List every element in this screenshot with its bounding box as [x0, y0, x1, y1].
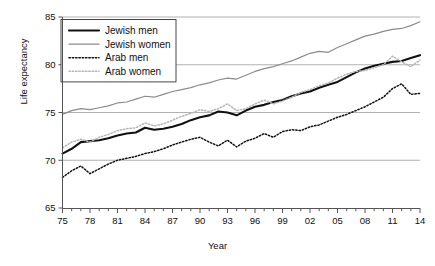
x-tick-label: 78	[85, 215, 96, 226]
x-tick-label: 99	[277, 215, 288, 226]
x-tick-label: 87	[167, 215, 178, 226]
chart-canvas: 6570758085 7578818487909396990205081114 …	[0, 0, 435, 266]
x-axis-label-text: Year	[208, 240, 227, 251]
chart-legend: Jewish menJewish womenArab menArab women	[61, 20, 176, 82]
y-tick-label: 85	[45, 11, 56, 22]
y-tick-label: 65	[45, 202, 56, 213]
y-tick-label: 75	[45, 107, 56, 118]
x-tick-label: 14	[415, 215, 426, 226]
y-tick-label: 80	[45, 59, 56, 70]
y-axis-label-text: Life expectancy	[18, 39, 29, 105]
y-axis-label: Life expectancy	[18, 7, 29, 137]
x-axis-label: Year	[0, 240, 435, 251]
x-tick-label: 05	[332, 215, 343, 226]
legend-label: Jewish men	[105, 25, 158, 36]
x-tick-label: 81	[112, 215, 123, 226]
x-tick-label: 75	[57, 215, 68, 226]
legend-label: Jewish women	[105, 39, 171, 50]
x-axis-ticks: 7578818487909396990205081114	[57, 208, 425, 226]
series-line	[63, 84, 421, 178]
life-expectancy-chart: 6570758085 7578818487909396990205081114 …	[0, 0, 435, 266]
x-tick-label: 93	[222, 215, 233, 226]
x-tick-label: 84	[140, 215, 151, 226]
x-tick-label: 96	[250, 215, 261, 226]
legend-label: Arab men	[105, 52, 148, 63]
legend-label: Arab women	[105, 66, 161, 77]
y-tick-label: 70	[45, 155, 56, 166]
x-tick-label: 11	[388, 215, 398, 226]
x-tick-label: 90	[195, 215, 206, 226]
x-tick-label: 08	[360, 215, 371, 226]
x-tick-label: 02	[305, 215, 316, 226]
y-axis-ticks: 6570758085	[45, 11, 63, 213]
